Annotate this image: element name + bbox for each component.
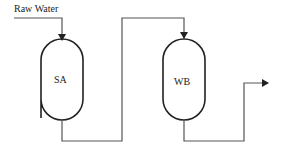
- raw-water-inlet-line: [14, 18, 62, 40]
- raw-water-label: Raw Water: [14, 3, 58, 14]
- vessel-wb-label: WB: [174, 76, 190, 87]
- vessel-sa-label: SA: [54, 74, 67, 85]
- sa-to-wb-line: [62, 18, 184, 141]
- process-flow-diagram: [0, 0, 281, 152]
- wb-outlet-line: [184, 83, 268, 141]
